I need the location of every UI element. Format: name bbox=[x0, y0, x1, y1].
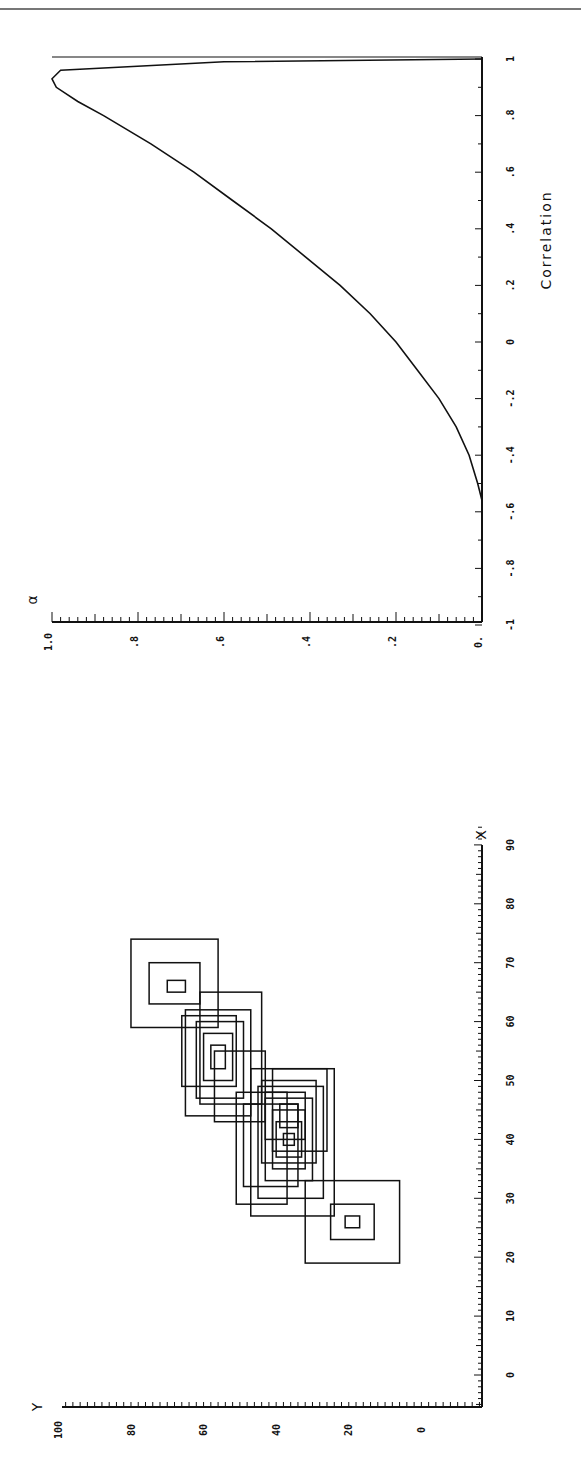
tick-label: 1 bbox=[505, 56, 516, 62]
tick-label: 50 bbox=[505, 1074, 516, 1086]
x-axis-title: X bbox=[473, 830, 489, 840]
chart-rectangles-xy: 0102030405060708090020406080100 X Y bbox=[29, 827, 516, 1439]
glyph-box bbox=[258, 1086, 323, 1198]
tick-label: .4 bbox=[301, 636, 312, 648]
glyph-box bbox=[265, 1092, 305, 1139]
chart1-axes bbox=[52, 57, 482, 622]
chart1-ticks bbox=[52, 59, 482, 625]
glyph-box bbox=[345, 1216, 360, 1228]
tick-label: 100 bbox=[53, 1421, 64, 1439]
figure: -1-.8-.6-.4-.20.2.4.6.810..2.4.6.81.0 Co… bbox=[0, 0, 581, 1484]
tick-label: 0 bbox=[505, 339, 516, 345]
tick-label: .6 bbox=[505, 166, 516, 178]
tick-label: 70 bbox=[505, 957, 516, 969]
tick-label: 0 bbox=[505, 1372, 516, 1378]
tick-label: -.6 bbox=[505, 503, 516, 521]
glyph-box bbox=[149, 963, 200, 1004]
tick-label: 80 bbox=[126, 1424, 137, 1436]
tick-label: .8 bbox=[505, 110, 516, 122]
tick-label: -.4 bbox=[505, 446, 516, 464]
chart2-ticks bbox=[66, 827, 482, 1407]
glyph-box bbox=[305, 1181, 399, 1263]
tick-label: 40 bbox=[271, 1424, 282, 1436]
y-axis-title: Y bbox=[29, 1402, 45, 1412]
tick-label: 90 bbox=[505, 839, 516, 851]
glyph-box bbox=[131, 939, 218, 1027]
glyph-box bbox=[204, 1033, 233, 1080]
glyph-box bbox=[331, 1204, 375, 1239]
tick-label: 0 bbox=[416, 1427, 427, 1433]
tick-label: .8 bbox=[129, 636, 140, 648]
chart1-tick-labels: -1-.8-.6-.4-.20.2.4.6.810..2.4.6.81.0 bbox=[43, 56, 516, 651]
tick-label: -.2 bbox=[505, 390, 516, 408]
tick-label: 0. bbox=[473, 636, 484, 648]
tick-label: .2 bbox=[505, 279, 516, 291]
y-axis-title: α bbox=[24, 595, 40, 604]
glyph-box bbox=[211, 1045, 226, 1069]
tick-label: 60 bbox=[505, 1016, 516, 1028]
tick-label: 40 bbox=[505, 1133, 516, 1145]
tick-label: 60 bbox=[198, 1424, 209, 1436]
tick-label: -1 bbox=[505, 619, 516, 631]
tick-label: .2 bbox=[387, 636, 398, 648]
glyph-box bbox=[251, 1069, 334, 1216]
tick-label: 20 bbox=[505, 1251, 516, 1263]
glyph-box bbox=[200, 992, 262, 1104]
tick-label: 1.0 bbox=[43, 633, 54, 651]
tick-label: 10 bbox=[505, 1310, 516, 1322]
tick-label: 30 bbox=[505, 1192, 516, 1204]
chart-alpha-correlation: -1-.8-.6-.4-.20.2.4.6.810..2.4.6.81.0 Co… bbox=[24, 56, 554, 651]
glyph-box bbox=[280, 1104, 298, 1128]
x-axis-title: Correlation bbox=[538, 190, 554, 289]
glyph-box bbox=[167, 980, 185, 992]
rectangle-glyphs bbox=[131, 939, 400, 1263]
tick-label: .6 bbox=[215, 636, 226, 648]
alpha-curve bbox=[52, 59, 482, 501]
tick-label: 20 bbox=[343, 1424, 354, 1436]
tick-label: -.8 bbox=[505, 559, 516, 577]
tick-label: 80 bbox=[505, 898, 516, 910]
tick-label: .4 bbox=[505, 223, 516, 235]
